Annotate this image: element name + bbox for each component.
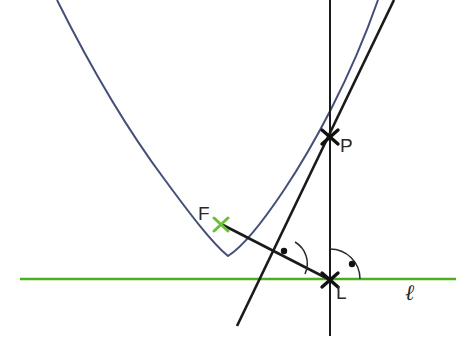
geometry-figure [0,0,474,339]
right-angle-dot-at-L [349,261,355,267]
label-directrix: ℓ [405,282,414,304]
right-angle-dot-tangent-fl [281,248,287,254]
right-angle-arc-tangent-fl [295,242,307,274]
label-point-p: P [340,136,353,155]
tangent-line-at-P [237,0,394,326]
diagram-canvas: P L F ℓ [0,0,474,339]
label-point-l: L [336,283,347,302]
point-f-marker [214,218,228,231]
segment-focus-to-foot [221,224,332,281]
label-point-f: F [198,204,210,223]
